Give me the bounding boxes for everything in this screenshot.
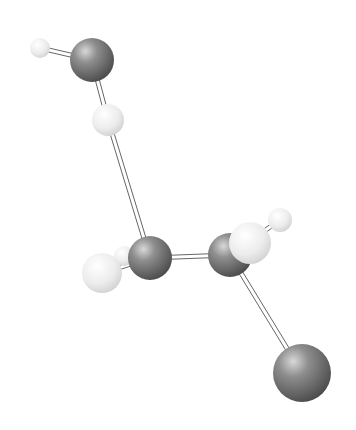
atom-o1[interactable] bbox=[70, 38, 114, 82]
atom-h4[interactable] bbox=[82, 253, 122, 293]
atom-h1[interactable] bbox=[30, 38, 50, 58]
atom-h5[interactable] bbox=[229, 222, 271, 264]
molecule-scene[interactable] bbox=[0, 0, 356, 430]
atom-o2[interactable] bbox=[273, 344, 331, 402]
atom-h6[interactable] bbox=[268, 208, 292, 232]
bonds-layer bbox=[40, 46, 304, 374]
atoms-layer bbox=[30, 38, 331, 402]
atom-c1[interactable] bbox=[128, 236, 172, 280]
atom-h2[interactable] bbox=[92, 104, 124, 136]
